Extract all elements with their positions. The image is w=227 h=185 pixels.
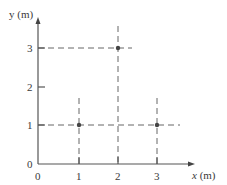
y-tick-label-3: 3	[27, 42, 33, 54]
y-axis-label: y (m)	[9, 8, 33, 21]
x-tick-label-2: 2	[115, 170, 121, 182]
point-2-3	[116, 46, 120, 50]
point-1-1	[77, 123, 81, 127]
y-axis-arrow-icon	[36, 17, 41, 24]
x-tick-label-0: 0	[35, 170, 41, 182]
y-tick-label-1: 1	[27, 119, 33, 131]
point-3-1	[155, 123, 159, 127]
x-axis-label: x (m)	[191, 169, 216, 182]
coordinate-plot: 0 1 2 3 0 1 2 3 y (m) x (m)	[0, 0, 227, 185]
x-tick-label-1: 1	[76, 170, 82, 182]
y-tick-label-0: 0	[27, 158, 33, 170]
axes	[38, 22, 190, 164]
x-axis-arrow-icon	[188, 162, 195, 167]
x-axis-unit: (m)	[197, 169, 216, 182]
y-tick-label-2: 2	[27, 81, 33, 93]
x-tick-label-3: 3	[154, 170, 160, 182]
dashed-guides	[38, 26, 180, 164]
